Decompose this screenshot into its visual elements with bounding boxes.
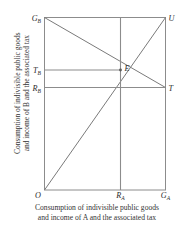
label-GA-sub: A (166, 195, 171, 201)
label-U: U (169, 14, 176, 23)
label-GB: GB (32, 14, 42, 24)
line-GB-to-T (45, 18, 166, 88)
figure-container: Consumption of indivisible public goods … (0, 0, 180, 230)
label-RB-sub: B (38, 88, 42, 94)
diagonal-O-to-U (45, 18, 166, 191)
label-T: T (169, 84, 175, 93)
label-RA-sub: A (120, 195, 125, 201)
equilibrium-point-E-marker (119, 69, 122, 72)
label-TB: TB (33, 66, 42, 76)
x-axis-caption: Consumption of indivisible public goods … (14, 203, 180, 223)
label-GA: GA (161, 191, 171, 201)
label-GB-sub: B (38, 18, 42, 24)
x-axis-caption-line2: and income of A and the associated tax (14, 213, 180, 223)
label-RB: RB (32, 84, 42, 94)
x-axis-caption-line1: Consumption of indivisible public goods (14, 203, 180, 213)
label-RA: RA (115, 191, 125, 201)
label-O: O (35, 191, 41, 200)
label-TB-sub: B (38, 70, 42, 76)
diagram-svg: GB U TB RB E T O RA GA (0, 0, 180, 230)
label-E: E (124, 64, 130, 73)
